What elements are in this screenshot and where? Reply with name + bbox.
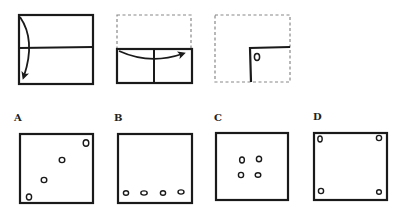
hole-icon — [160, 191, 165, 196]
punched-hole-icon — [254, 54, 259, 61]
folded-away-outline — [117, 15, 191, 49]
puzzle-canvas — [0, 0, 408, 214]
fold-right-arrow-icon — [119, 51, 182, 59]
option-c[interactable] — [216, 133, 288, 200]
hole-icon — [377, 190, 382, 195]
option-c-paper — [216, 133, 288, 200]
step-1-panel — [19, 15, 93, 84]
hole-icon — [318, 188, 323, 193]
option-c-label: C — [214, 112, 222, 123]
option-b[interactable] — [118, 134, 192, 203]
horizontal-fold-line — [19, 47, 93, 48]
option-a-paper — [20, 134, 93, 203]
hole-icon — [59, 157, 65, 162]
hole-icon — [26, 194, 31, 200]
hole-icon — [256, 156, 261, 162]
option-d[interactable] — [314, 133, 387, 200]
hole-icon — [123, 191, 128, 196]
hole-icon — [240, 157, 245, 163]
option-a-label: A — [14, 112, 22, 123]
hole-icon — [238, 172, 243, 177]
hole-icon — [318, 136, 322, 142]
folded-quarter-edges — [250, 47, 290, 82]
hole-icon — [255, 173, 261, 178]
hole-icon — [376, 135, 381, 140]
step-3-panel — [215, 15, 290, 82]
step-2-panel — [117, 15, 192, 83]
option-b-label: B — [114, 112, 122, 123]
option-d-label: D — [313, 111, 322, 122]
option-d-paper — [314, 133, 387, 200]
hole-icon — [41, 177, 47, 182]
paper-square — [19, 15, 93, 84]
hole-icon — [178, 190, 184, 194]
hole-icon — [83, 140, 89, 146]
fold-down-arrow-icon — [20, 17, 29, 76]
hole-icon — [141, 191, 147, 195]
option-a[interactable] — [20, 134, 93, 203]
